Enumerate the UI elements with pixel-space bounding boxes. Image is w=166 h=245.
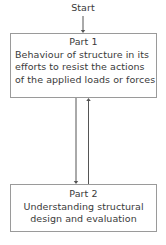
flowchart-diagram: Start Part 1 Behaviour of structure in i… [0, 0, 166, 245]
node-part2-body-line: design and evaluation [14, 213, 153, 225]
node-part2: Part 2 Understanding structural design a… [10, 184, 157, 232]
node-part1: Part 1 Behaviour of structure in its eff… [10, 33, 157, 98]
start-label: Start [0, 2, 166, 14]
node-part1-body: Behaviour of structure in its efforts to… [11, 49, 156, 86]
node-part1-body-line: efforts to resist the actions [15, 61, 153, 73]
node-part1-title: Part 1 [11, 36, 156, 48]
node-part1-body-line: of the applied loads or forces [15, 74, 153, 86]
node-part1-body-line: Behaviour of structure in its [15, 49, 153, 61]
node-part2-body-line: Understanding structural [14, 201, 153, 213]
node-part2-body: Understanding structural design and eval… [11, 201, 156, 226]
node-part2-title: Part 2 [11, 188, 156, 200]
